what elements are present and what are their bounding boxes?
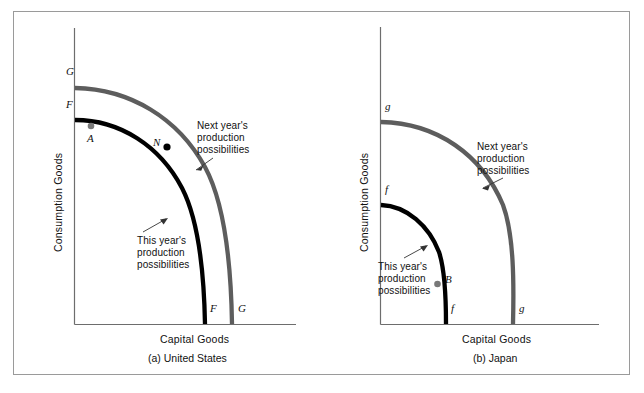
japan-label-g-bottom: g [519, 303, 525, 315]
japan-point-b-marker [434, 281, 441, 288]
japan-x-axis-title: Capital Goods [462, 334, 531, 346]
japan-this-year-annotation-line2: production [378, 273, 426, 285]
us-point-n-marker [163, 143, 170, 150]
us-this-year-annotation-line1: This year's [137, 235, 186, 247]
us-y-axis-title: Consumption Goods [52, 153, 64, 252]
japan-label-f-bottom: f [451, 303, 454, 315]
us-next-year-annotation-line1: Next year's [197, 120, 248, 132]
us-next-year-annotation-line3: possibilities [197, 144, 249, 156]
us-next-year-annotation-line2: production [197, 132, 245, 144]
japan-this-year-annotation-line1: This year's [378, 261, 427, 273]
japan-next-year-annotation-line2: production [477, 153, 525, 165]
us-point-a-label: A [87, 133, 94, 145]
japan-this-year-annotation-line3: possibilities [378, 285, 430, 297]
ppf-diagram [0, 0, 644, 393]
us-label-f-top: F [66, 99, 73, 111]
japan-label-f-top: f [385, 184, 388, 196]
japan-point-b-label: B [445, 274, 452, 286]
japan-next-year-annotation-line3: possibilities [477, 165, 529, 177]
us-this-year-annotation-line3: possibilities [137, 259, 189, 271]
us-point-a-marker [88, 123, 95, 130]
japan-next-year-annotation-line1: Next year's [477, 141, 528, 153]
figure-border [14, 12, 630, 375]
us-label-g-bottom: G [238, 303, 246, 315]
us-panel-caption: (a) United States [148, 353, 227, 365]
japan-label-g-top: g [385, 101, 391, 113]
figure-container: Consumption Goods G F F G A N Next year'… [0, 0, 644, 393]
us-this-year-annotation-line2: production [137, 247, 185, 259]
japan-y-axis-title: Consumption Goods [358, 153, 370, 252]
us-label-f-bottom: F [210, 303, 217, 315]
us-x-axis-title: Capital Goods [160, 334, 229, 346]
us-label-g-top: G [66, 66, 74, 78]
us-point-n-label: N [153, 137, 160, 149]
japan-panel-caption: (b) Japan [473, 353, 517, 365]
